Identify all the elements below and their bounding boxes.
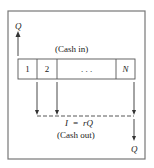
arrowhead-up-icon xyxy=(16,31,21,37)
arrowhead-down-icon xyxy=(35,110,39,115)
bottom-q-label: Q xyxy=(131,145,138,154)
cash-in-label: (Cash in) xyxy=(55,45,88,54)
period-cell-n: N xyxy=(116,59,135,79)
period-cell-2: 2 xyxy=(37,59,57,79)
period-cell-1: 1 xyxy=(18,59,37,79)
arrowhead-down-icon xyxy=(132,136,136,141)
interest-formula-label: I = rQ xyxy=(65,119,93,128)
cash-out-label: (Cash out) xyxy=(57,131,95,140)
arrowhead-down-icon xyxy=(132,110,136,115)
diagram-canvas xyxy=(0,0,154,168)
arrowhead-down-icon xyxy=(55,110,59,115)
period-cell-ellipsis: . . . xyxy=(57,59,116,79)
top-q-label: Q xyxy=(15,22,22,31)
